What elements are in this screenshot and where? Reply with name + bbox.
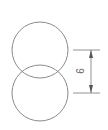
diagram-canvas: 6: [0, 0, 108, 130]
arrow-up-icon: [89, 50, 93, 58]
upper-circle: [12, 22, 68, 78]
dimension-label: 6: [75, 68, 86, 74]
dimension-annotation: 6: [73, 50, 100, 93]
lower-circle: [12, 65, 68, 121]
arrow-down-icon: [89, 85, 93, 93]
